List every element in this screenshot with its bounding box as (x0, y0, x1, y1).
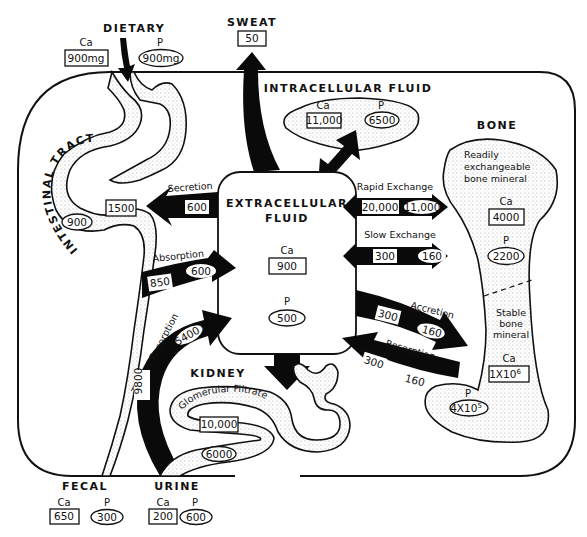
extracellular-p-value: 500 (277, 312, 297, 324)
filtrate-ca-value: 10,000 (201, 418, 238, 430)
kidney-label: KIDNEY (190, 367, 245, 380)
calcium-phosphorus-balance-diagram: INTESTINAL TRACT 1500 900 DIETARY Ca 900… (0, 0, 587, 537)
extracellular-ca-value: 900 (277, 260, 297, 272)
urine-label: URINE (154, 480, 200, 493)
stable-bone-line2: bone (499, 318, 523, 329)
urine-p-value: 600 (186, 511, 206, 523)
readily-ca-label: Ca (499, 196, 512, 207)
stable-bone-line3: mineral (493, 329, 529, 340)
fecal-p-label: P (104, 497, 110, 508)
intracellular-p-label: P (378, 100, 384, 111)
intracellular-ca-label: Ca (316, 100, 329, 111)
resorption-p-value: 160 (404, 372, 426, 388)
extracellular-label-line1: EXTRACELLULAR (226, 197, 348, 210)
intracellular-label: INTRACELLULAR FLUID (264, 82, 433, 95)
dietary-ca-label: Ca (79, 37, 92, 48)
bone-label: BONE (477, 119, 517, 132)
slow-exchange-p-value: 160 (422, 250, 442, 262)
extracellular-ca-label: Ca (280, 245, 293, 256)
tubular-resorption-ca-value: 9800 (132, 368, 144, 395)
slow-exchange-label: Slow Exchange (364, 229, 436, 240)
readily-p-value: 2200 (493, 250, 520, 262)
readily-exchangeable-line3: bone mineral (464, 173, 527, 184)
intestinal-p-value: 900 (67, 216, 87, 228)
dietary-ca-value: 900mg (68, 52, 105, 64)
sweat-label: SWEAT (227, 16, 277, 29)
kidney-nephron (160, 364, 350, 476)
dietary-p-label: P (157, 37, 163, 48)
slow-exchange-ca-value: 300 (375, 250, 395, 262)
intracellular-p-value: 6500 (369, 114, 396, 126)
urine-ca-value: 200 (153, 510, 173, 522)
extracellular-p-label: P (284, 296, 290, 307)
extracellular-label-line2: FLUID (265, 212, 309, 225)
readily-ca-value: 4000 (493, 211, 520, 223)
rapid-exchange-ca-value: 20,000 (362, 201, 399, 213)
secretion-label: Secretion (167, 180, 213, 194)
secretion-ca-value: 600 (187, 201, 207, 213)
stable-bone-line1: Stable (496, 307, 526, 318)
fecal-ca-label: Ca (57, 497, 70, 508)
fecal-label: FECAL (62, 480, 108, 493)
readily-exchangeable-line2: exchangeable (464, 161, 531, 172)
filtrate-p-value: 6000 (206, 448, 233, 460)
readily-exchangeable-line1: Readily (464, 149, 499, 160)
rapid-exchange-label: Rapid Exchange (357, 181, 434, 192)
sweat-arrow (236, 52, 280, 172)
dietary-label: DIETARY (103, 22, 165, 35)
sweat-ca-value: 50 (245, 32, 258, 44)
absorption-p-value: 600 (191, 265, 211, 277)
bone-compartment (425, 139, 557, 442)
urine-p-label: P (192, 497, 198, 508)
stable-p-label: P (465, 388, 471, 399)
rapid-exchange-p-value: 11,000 (404, 201, 441, 213)
stable-ca-label: Ca (502, 353, 515, 364)
fecal-ca-value: 650 (54, 510, 74, 522)
readily-p-label: P (503, 235, 509, 246)
fecal-p-value: 300 (97, 511, 117, 523)
intracellular-ca-value: 11,000 (306, 114, 343, 126)
urine-ca-label: Ca (156, 497, 169, 508)
dietary-p-value: 900mg (143, 52, 180, 64)
intestinal-ca-value: 1500 (108, 202, 135, 214)
stable-p-value: 4X105 (450, 402, 482, 414)
